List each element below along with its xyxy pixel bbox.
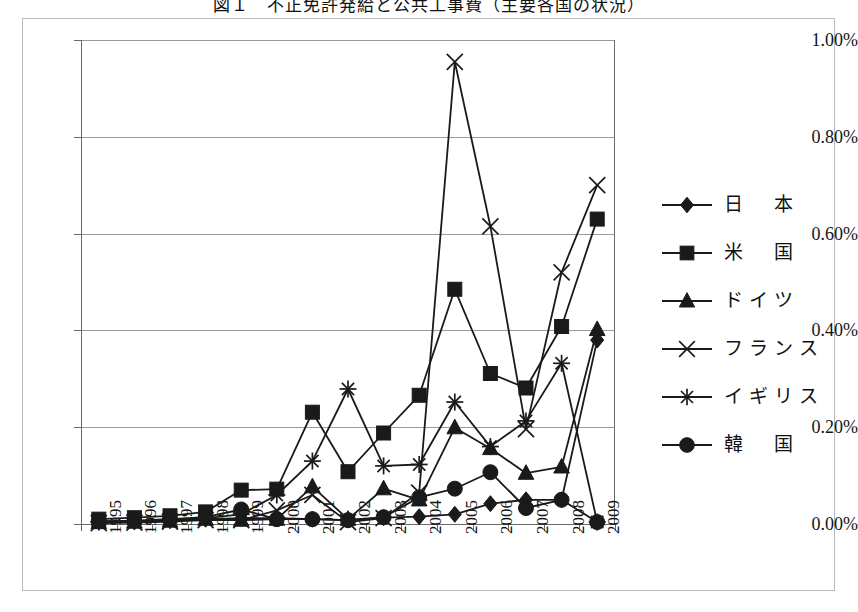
x-tick-label: 2005 [463, 500, 480, 534]
legend-label: 韓 国 [724, 433, 799, 457]
y-axis-line [81, 40, 82, 525]
x-tick-label: 1999 [249, 500, 266, 534]
legend-marker-square [660, 241, 714, 265]
marker-triangle [679, 293, 694, 307]
legend-label: 米 国 [724, 241, 799, 265]
x-tick-label: 2003 [392, 500, 409, 534]
x-tick-label: 1997 [178, 500, 195, 534]
legend-marker-diamond [660, 193, 714, 217]
x-tick-label: 2009 [605, 500, 622, 534]
x-tick-mark [81, 524, 82, 531]
x-tick-label: 2008 [570, 500, 587, 534]
legend-item-6[interactable]: 韓 国 [660, 423, 828, 471]
x-tick-label: 1995 [107, 500, 124, 534]
y-tick-label: 0.00% [786, 515, 858, 533]
marker-asterisk [679, 389, 696, 406]
legend-label: フランス [724, 337, 824, 361]
legend-label: ドイツ [724, 289, 799, 313]
chart-legend: 日 本米 国ドイツフランスイギリス韓 国 [660, 183, 828, 471]
plot-right-border [614, 40, 615, 525]
x-tick-label: 2000 [285, 500, 302, 534]
x-tick-label: 1998 [214, 500, 231, 534]
x-tick-label: 2001 [320, 500, 337, 534]
legend-marker-triangle [660, 289, 714, 313]
x-tick-label: 2004 [427, 500, 444, 534]
legend-item-3[interactable]: ドイツ [660, 279, 828, 327]
gridline [81, 234, 615, 235]
marker-circle [680, 438, 695, 453]
legend-item-4[interactable]: フランス [660, 327, 828, 375]
gridline [81, 137, 615, 138]
legend-marker-asterisk [660, 385, 714, 409]
legend-marker-cross [660, 337, 714, 361]
y-tick-label: 0.80% [786, 128, 858, 146]
legend-label: 日 本 [724, 193, 799, 217]
chart-title: 図１ 不正免許発給と公共工事費（主要各国の状況） [0, 0, 858, 16]
gridline [81, 330, 615, 331]
y-tick-label: 1.00% [786, 31, 858, 49]
x-tick-label: 2007 [534, 500, 551, 534]
x-tick-label: 2006 [498, 500, 515, 534]
x-tick-label: 2002 [356, 500, 373, 534]
legend-label: イギリス [724, 385, 824, 409]
legend-marker-circle [660, 433, 714, 457]
marker-diamond [681, 197, 694, 213]
chart-page: 図１ 不正免許発給と公共工事費（主要各国の状況） 0.00%0.20%0.40%… [0, 0, 858, 612]
gridline [81, 40, 615, 41]
gridline [81, 427, 615, 428]
x-tick-label: 1996 [142, 500, 159, 534]
legend-item-2[interactable]: 米 国 [660, 231, 828, 279]
legend-item-5[interactable]: イギリス [660, 375, 828, 423]
marker-square [680, 246, 694, 260]
legend-item-1[interactable]: 日 本 [660, 183, 828, 231]
